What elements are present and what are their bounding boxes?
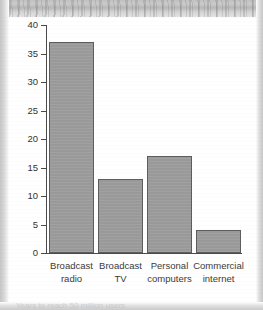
y-axis-tick-label: 40 [12, 20, 38, 30]
figure-caption: Years to reach 50 million users [16, 300, 236, 310]
x-axis-line [46, 253, 242, 254]
y-axis-tick-label: 30 [12, 77, 38, 87]
bar [196, 230, 242, 253]
bar-chart: 4035302520151050 BroadcastradioBroadcast… [0, 17, 263, 310]
y-axis-tick-label: 25 [12, 106, 38, 116]
y-axis-tick-label: 10 [12, 191, 38, 201]
y-axis-tick-label: 0 [12, 248, 38, 258]
plot-area: 4035302520151050 [0, 17, 263, 257]
bar [49, 42, 95, 253]
y-axis-tick-label: 5 [12, 220, 38, 230]
x-axis-labels: BroadcastradioBroadcastTVPersonalcompute… [47, 260, 247, 290]
x-axis-label-line: internet [190, 273, 247, 286]
bar [147, 156, 193, 253]
y-axis-tick-label: 15 [12, 163, 38, 173]
bar-series [47, 25, 243, 253]
y-axis-tick-label: 20 [12, 134, 38, 144]
x-axis-label: Commercialinternet [190, 260, 247, 285]
scan-artifact-top-band [0, 0, 263, 17]
x-axis-label-line: Commercial [190, 260, 247, 273]
y-axis-tick-label: 35 [12, 49, 38, 59]
y-axis-tick [41, 253, 47, 254]
bar [98, 179, 144, 253]
